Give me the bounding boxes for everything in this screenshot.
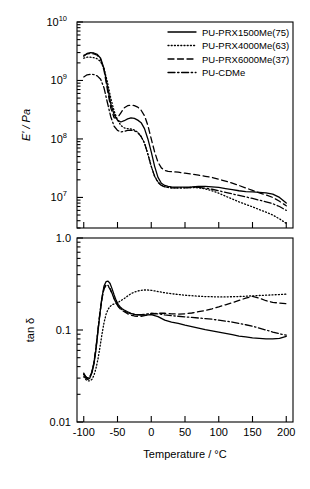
- x-tick-label: 200: [277, 426, 295, 438]
- panel-frame: [77, 238, 293, 422]
- x-tick-label: 50: [179, 426, 191, 438]
- x-tick-label: 0: [148, 426, 154, 438]
- legend-label: PU-PRX6000Me(37): [202, 54, 289, 65]
- x-tick-label: 150: [243, 426, 261, 438]
- y-tick-label: 109: [51, 72, 67, 86]
- curve-PU-CDMe: [84, 74, 287, 210]
- curve-PU-CDMe: [84, 285, 287, 378]
- legend-label: PU-CDMe: [202, 67, 245, 78]
- legend-label: PU-PRX4000Me(63): [202, 40, 289, 51]
- dma-plot-svg: 1071081091010E' / Pa0.010.11.0tan δ-100-…: [0, 0, 310, 489]
- curve-group: [84, 281, 287, 381]
- curve-PU-PRX1500Me(75): [84, 53, 287, 204]
- x-axis: -100-50050100150200Temperature / °C: [73, 426, 296, 460]
- y-tick-exponent: 10: [59, 14, 67, 23]
- curve-PU-PRX4000Me(63): [84, 57, 287, 223]
- axis-label-y: E' / Pa: [20, 109, 32, 141]
- curve-group: [84, 53, 287, 224]
- y-tick-exponent: 7: [63, 189, 67, 198]
- axis-label-y: tan δ: [24, 318, 36, 342]
- curve-PU-PRX6000Me(37): [84, 53, 287, 205]
- panel-tan-delta: 0.010.11.0tan δ: [24, 232, 293, 428]
- y-tick-label: 108: [51, 131, 67, 145]
- x-tick-label: 100: [210, 426, 228, 438]
- dma-figure: 1071081091010E' / Pa0.010.11.0tan δ-100-…: [0, 0, 310, 489]
- y-tick-label: 0.1: [56, 324, 71, 336]
- y-tick-label: 1010: [46, 14, 67, 28]
- y-tick-exponent: 9: [63, 72, 67, 81]
- curve-PU-PRX4000Me(63): [84, 290, 287, 381]
- x-tick-label: -50: [110, 426, 126, 438]
- legend: PU-PRX1500Me(75)PU-PRX4000Me(63)PU-PRX60…: [168, 27, 289, 79]
- y-tick-label: 107: [51, 189, 67, 203]
- legend-label: PU-PRX1500Me(75): [202, 27, 289, 38]
- y-tick-exponent: 8: [63, 131, 67, 140]
- axis-label-x: Temperature / °C: [143, 448, 226, 460]
- y-tick-label: 0.01: [50, 416, 71, 428]
- y-tick-label: 1.0: [56, 232, 71, 244]
- x-tick-label: -100: [73, 426, 95, 438]
